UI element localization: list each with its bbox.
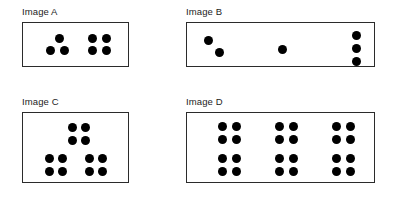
- dot: [215, 48, 224, 57]
- dot: [352, 31, 361, 40]
- dot: [275, 154, 284, 163]
- panel-c-box: [22, 112, 129, 183]
- dot: [98, 167, 107, 176]
- dot: [232, 135, 241, 144]
- panel-image-d: Image D: [186, 96, 376, 188]
- dot: [332, 167, 341, 176]
- dot: [55, 34, 64, 43]
- dot: [278, 45, 287, 54]
- panel-image-c: Image C: [22, 96, 130, 188]
- dot: [85, 154, 94, 163]
- dot: [218, 122, 227, 131]
- dot: [346, 122, 355, 131]
- panel-d-label: Image D: [186, 96, 223, 108]
- dot: [81, 136, 90, 145]
- dot: [289, 122, 298, 131]
- dot: [275, 122, 284, 131]
- panel-a-label: Image A: [22, 6, 58, 18]
- dot: [102, 34, 111, 43]
- dot: [46, 46, 55, 55]
- dot: [289, 154, 298, 163]
- dot: [232, 122, 241, 131]
- dot: [346, 167, 355, 176]
- dot: [289, 167, 298, 176]
- dot: [60, 46, 69, 55]
- panel-d-box: [186, 112, 375, 183]
- dot: [332, 135, 341, 144]
- dot: [346, 154, 355, 163]
- dot: [85, 167, 94, 176]
- dot: [58, 167, 67, 176]
- dot: [218, 154, 227, 163]
- dot: [218, 167, 227, 176]
- dot: [232, 154, 241, 163]
- dot: [346, 135, 355, 144]
- panel-a-box: [22, 22, 129, 67]
- dot: [68, 136, 77, 145]
- dot: [218, 135, 227, 144]
- dot: [352, 57, 361, 66]
- dot: [102, 46, 111, 55]
- dot-pattern-figure: Image A Image B Image C Image D: [0, 0, 396, 203]
- dot: [275, 167, 284, 176]
- panel-b-label: Image B: [186, 6, 222, 18]
- dot: [98, 154, 107, 163]
- dot: [352, 44, 361, 53]
- dot: [332, 122, 341, 131]
- dot: [204, 36, 213, 45]
- panel-c-label: Image C: [22, 96, 59, 108]
- dot: [58, 154, 67, 163]
- panel-image-b: Image B: [186, 6, 376, 73]
- dot: [45, 167, 54, 176]
- dot: [275, 135, 284, 144]
- dot: [232, 167, 241, 176]
- dot: [45, 154, 54, 163]
- dot: [88, 46, 97, 55]
- dot: [68, 123, 77, 132]
- panel-b-box: [186, 22, 375, 67]
- dot: [289, 135, 298, 144]
- dot: [81, 123, 90, 132]
- dot: [332, 154, 341, 163]
- dot: [88, 34, 97, 43]
- panel-image-a: Image A: [22, 6, 130, 73]
